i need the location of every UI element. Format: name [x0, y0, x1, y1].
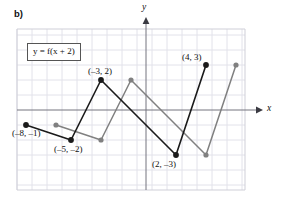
- x-axis-arrow: [256, 107, 263, 114]
- y-axis-label: y: [142, 2, 146, 12]
- y-axis-arrow: [143, 17, 150, 24]
- point-label-neg8-neg1: (–8, –1): [12, 128, 41, 138]
- point-label-2-neg3: (2, –3): [152, 159, 176, 169]
- equation-label-box: y = f(x + 2): [27, 43, 81, 61]
- point-label-neg3-2: (–3, 2): [88, 66, 112, 76]
- point-label-neg5-neg2: (–5, –2): [54, 144, 83, 154]
- figure-container: b): [0, 0, 286, 202]
- coordinate-plane: [0, 0, 286, 202]
- x-axis-label: x: [267, 103, 271, 113]
- point-label-4-3: (4, 3): [182, 52, 202, 62]
